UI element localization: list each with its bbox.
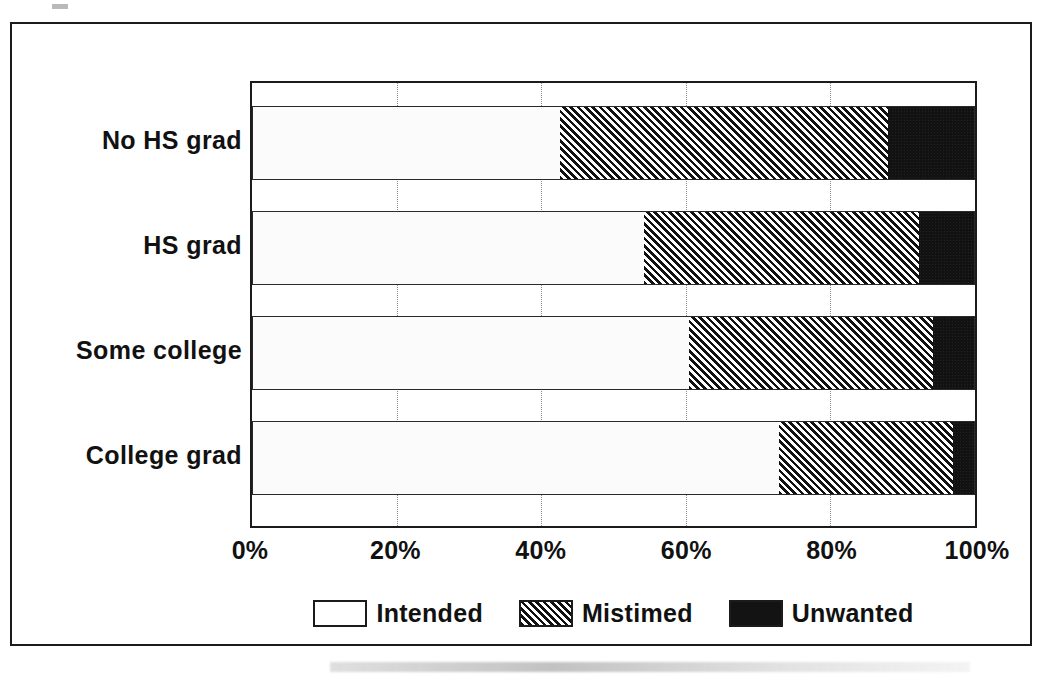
x-tick-60: 60% bbox=[661, 536, 712, 565]
legend-item-unwanted: Unwanted bbox=[729, 599, 914, 628]
x-tick-80: 80% bbox=[806, 536, 857, 565]
x-tick-40: 40% bbox=[515, 536, 566, 565]
bar-segment-mistimed bbox=[689, 316, 933, 390]
bar-segment-mistimed bbox=[560, 106, 888, 180]
x-tick-0: 0% bbox=[232, 536, 269, 565]
bar-row bbox=[252, 316, 975, 390]
bar-segment-intended bbox=[252, 106, 560, 180]
bar-segment-unwanted bbox=[919, 211, 975, 285]
category-label-some-college: Some college bbox=[32, 336, 242, 365]
legend-label-unwanted: Unwanted bbox=[792, 599, 914, 628]
bar-row bbox=[252, 211, 975, 285]
plot-area bbox=[250, 81, 977, 528]
bar-segment-intended bbox=[252, 211, 644, 285]
bar-segment-mistimed bbox=[644, 211, 919, 285]
x-tick-20: 20% bbox=[370, 536, 421, 565]
scan-artifact-smudge bbox=[330, 662, 970, 672]
bar-segment-unwanted bbox=[933, 316, 975, 390]
bar-segment-unwanted bbox=[953, 421, 975, 495]
category-axis: No HS grad HS grad Some college College … bbox=[20, 81, 242, 528]
scan-artifact-speck bbox=[52, 4, 68, 9]
legend-item-mistimed: Mistimed bbox=[519, 599, 693, 628]
bar-segment-unwanted bbox=[888, 106, 975, 180]
x-tick-100: 100% bbox=[944, 536, 1009, 565]
bar-row bbox=[252, 106, 975, 180]
category-label-hs-grad: HS grad bbox=[32, 231, 242, 260]
chart-legend: Intended Mistimed Unwanted bbox=[250, 590, 977, 636]
figure-frame: No HS grad HS grad Some college College … bbox=[10, 22, 1032, 646]
legend-swatch-unwanted-icon bbox=[729, 600, 783, 627]
bar-row bbox=[252, 421, 975, 495]
bar-segment-mistimed bbox=[779, 421, 953, 495]
category-label-college-grad: College grad bbox=[32, 441, 242, 470]
bar-segment-intended bbox=[252, 421, 779, 495]
legend-label-intended: Intended bbox=[376, 599, 483, 628]
legend-label-mistimed: Mistimed bbox=[582, 599, 693, 628]
legend-swatch-mistimed-icon bbox=[519, 600, 573, 627]
bar-segment-intended bbox=[252, 316, 689, 390]
legend-swatch-intended-icon bbox=[313, 600, 367, 627]
category-label-no-hs-grad: No HS grad bbox=[32, 126, 242, 155]
value-axis: 0% 20% 40% 60% 80% 100% bbox=[250, 536, 977, 572]
legend-item-intended: Intended bbox=[313, 599, 483, 628]
